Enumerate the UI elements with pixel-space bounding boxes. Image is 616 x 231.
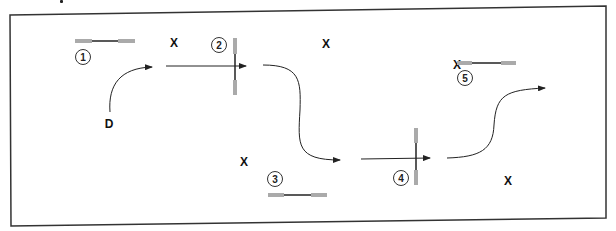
specimen-1-number: 1 [80, 52, 86, 63]
x-mark-1: X [170, 36, 178, 50]
arrow-to-specimen-4 [361, 158, 430, 159]
specimen-4-number-badge: 4 [394, 171, 409, 186]
specimen-5-number: 5 [462, 73, 468, 84]
specimen-2-number: 2 [216, 40, 222, 51]
arrow-s-curve-up [447, 88, 545, 158]
specimen-1-number-badge: 1 [76, 50, 91, 65]
specimen-1 [75, 39, 135, 43]
arrow-s-curve-down [263, 65, 340, 160]
specimen-2-number-badge: 2 [212, 38, 227, 53]
x-mark-4: X [240, 155, 248, 169]
specimen-3-number-badge: 3 [268, 172, 283, 187]
specimen-3-number: 3 [272, 174, 278, 185]
specimen-4-number: 4 [398, 173, 404, 184]
specimen-5-number-badge: 5 [458, 71, 473, 86]
diagram-frame [10, 6, 606, 226]
specimen-4 [414, 128, 418, 185]
x-mark-5: X [504, 174, 512, 188]
specimen-3 [268, 193, 327, 197]
x-mark-2: X [322, 37, 330, 51]
start-label: D [105, 117, 114, 131]
specimen-5 [457, 61, 516, 65]
process-diagram: 1 X X X X X D 2 4 3 [0, 0, 616, 231]
arrow-d-curve [110, 67, 152, 112]
